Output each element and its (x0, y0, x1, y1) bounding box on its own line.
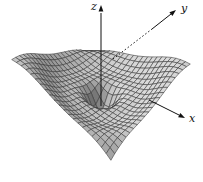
z-axis-label: z (90, 0, 97, 13)
y-axis-label: y (180, 2, 188, 15)
x-axis-label: x (189, 112, 196, 125)
y-axis: y (113, 2, 188, 59)
x-axis-line (149, 100, 179, 115)
x-axis-arrowhead (178, 113, 185, 118)
surface-plot-svg: z y x (0, 0, 203, 182)
x-axis: x (149, 100, 196, 125)
y-axis-line (152, 14, 171, 29)
surface-figure: z y x (0, 0, 203, 182)
z-axis-arrowhead (99, 5, 104, 12)
